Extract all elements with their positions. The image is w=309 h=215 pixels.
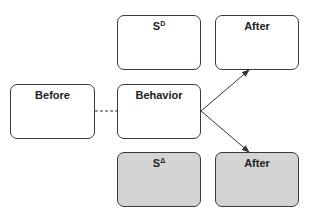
node-before: Before <box>10 84 95 139</box>
node-s-delta-label: SΔ <box>118 157 200 170</box>
diagram-canvas: Before Behavior SD After SΔ After <box>0 0 309 215</box>
node-discriminative-stimulus: SD <box>117 15 201 70</box>
node-after-bottom: After <box>215 152 299 207</box>
node-s-delta-superscript: Δ <box>160 157 165 164</box>
node-sd-superscript: D <box>160 20 165 27</box>
node-after-bottom-label: After <box>216 157 298 170</box>
node-after-top-label: After <box>216 20 298 33</box>
node-behavior-label: Behavior <box>118 89 200 102</box>
node-after-top: After <box>215 15 299 70</box>
arrow-behavior-to-after-top <box>201 70 249 111</box>
node-before-label: Before <box>11 89 94 102</box>
arrow-behavior-to-after-bottom <box>201 111 249 152</box>
node-sd-label: SD <box>118 20 200 33</box>
node-s-delta: SΔ <box>117 152 201 207</box>
node-behavior: Behavior <box>117 84 201 139</box>
